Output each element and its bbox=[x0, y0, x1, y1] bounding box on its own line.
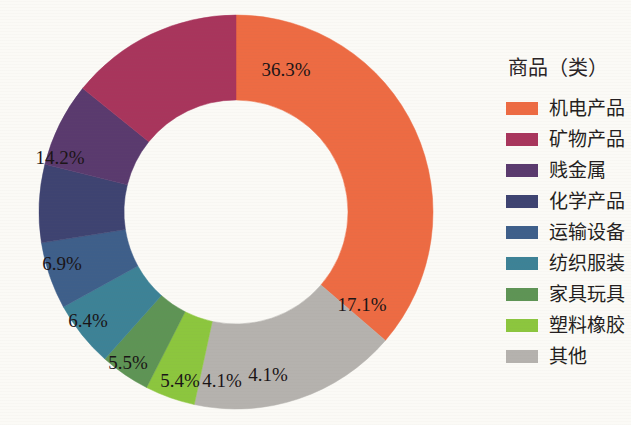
legend-swatch-icon bbox=[506, 288, 538, 301]
legend-item-label: 矿物产品 bbox=[549, 130, 625, 149]
donut-slices bbox=[39, 15, 433, 409]
legend-item[interactable]: 运输设备 bbox=[498, 217, 631, 248]
donut-slice-value-label: 36.3% bbox=[261, 59, 310, 80]
page-root: 36.3%17.1%4.1%4.1%5.4%5.5%6.4%6.9%14.2% … bbox=[0, 0, 631, 425]
legend-item[interactable]: 矿物产品 bbox=[498, 124, 631, 155]
legend-swatch-icon bbox=[506, 102, 538, 115]
legend-swatch-icon bbox=[506, 257, 538, 270]
donut-slice-value-label: 14.2% bbox=[35, 147, 84, 168]
legend-item-label: 塑料橡胶 bbox=[549, 316, 625, 335]
legend-item-label: 纺织服装 bbox=[549, 254, 625, 273]
donut-slice-value-label: 17.1% bbox=[337, 294, 386, 315]
donut-slice-value-label: 5.4% bbox=[160, 370, 200, 391]
legend-item-label: 家具玩具 bbox=[549, 285, 625, 304]
legend-items: 机电产品矿物产品贱金属化学产品运输设备纺织服装家具玩具塑料橡胶其他 bbox=[498, 93, 631, 372]
donut-chart: 36.3%17.1%4.1%4.1%5.4%5.5%6.4%6.9%14.2% bbox=[0, 0, 470, 425]
chart-legend: 商品（类） 机电产品矿物产品贱金属化学产品运输设备纺织服装家具玩具塑料橡胶其他 bbox=[498, 52, 631, 372]
legend-swatch-icon bbox=[506, 350, 538, 363]
legend-swatch-icon bbox=[506, 195, 538, 208]
legend-item[interactable]: 塑料橡胶 bbox=[498, 310, 631, 341]
donut-slice-value-label: 6.9% bbox=[42, 253, 82, 274]
legend-item[interactable]: 纺织服装 bbox=[498, 248, 631, 279]
legend-swatch-icon bbox=[506, 133, 538, 146]
donut-slice-value-label: 4.1% bbox=[248, 364, 288, 385]
legend-item[interactable]: 机电产品 bbox=[498, 93, 631, 124]
legend-item[interactable]: 家具玩具 bbox=[498, 279, 631, 310]
legend-item-label: 贱金属 bbox=[549, 161, 606, 180]
donut-slice-value-label: 4.1% bbox=[202, 370, 242, 391]
legend-item[interactable]: 化学产品 bbox=[498, 186, 631, 217]
legend-item[interactable]: 其他 bbox=[498, 341, 631, 372]
legend-item-label: 机电产品 bbox=[549, 99, 625, 118]
donut-chart-svg: 36.3%17.1%4.1%4.1%5.4%5.5%6.4%6.9%14.2% bbox=[0, 0, 470, 425]
donut-slice-value-label: 6.4% bbox=[68, 310, 108, 331]
legend-item-label: 化学产品 bbox=[549, 192, 625, 211]
legend-swatch-icon bbox=[506, 226, 538, 239]
legend-swatch-icon bbox=[506, 164, 538, 177]
donut-slice-value-label: 5.5% bbox=[108, 352, 148, 373]
legend-title: 商品（类） bbox=[508, 52, 631, 81]
legend-item-label: 其他 bbox=[549, 347, 587, 366]
legend-swatch-icon bbox=[506, 319, 538, 332]
legend-item[interactable]: 贱金属 bbox=[498, 155, 631, 186]
legend-item-label: 运输设备 bbox=[549, 223, 625, 242]
